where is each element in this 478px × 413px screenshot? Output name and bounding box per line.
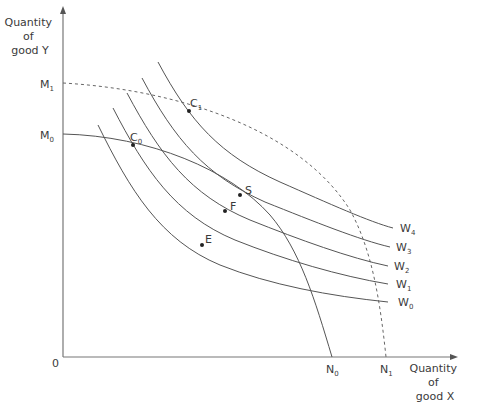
label-n1: N1 (380, 363, 393, 378)
label-w0: W0 (398, 296, 413, 311)
label-m0: M0 (40, 129, 54, 144)
label-c1: C1 (190, 97, 202, 112)
label-w3: W3 (396, 241, 411, 256)
point-e (200, 243, 204, 247)
label-n0: N0 (326, 363, 339, 378)
y-axis-label: Quantity of good Y (4, 16, 55, 57)
point-s (238, 193, 242, 197)
y-axis-arrow-icon (60, 6, 66, 14)
origin-label: 0 (52, 357, 59, 370)
ppf-initial-curve (63, 134, 332, 357)
label-w2: W2 (394, 260, 409, 275)
x-axis-label: Quantity of good X (409, 362, 460, 403)
label-e: E (205, 233, 212, 246)
production-possibility-diagram: Quantity of good Y Quantity of good X 0 … (0, 0, 478, 413)
label-m1: M1 (40, 78, 54, 93)
label-c0: C0 (130, 131, 142, 146)
indifference-curve-w3 (142, 78, 390, 247)
x-axis-arrow-icon (450, 354, 458, 360)
point-f (223, 209, 227, 213)
indifference-curve-w4 (158, 62, 393, 228)
label-w4: W4 (400, 222, 416, 237)
ppf-expanded-curve (63, 83, 386, 357)
indifference-curves (98, 62, 393, 302)
label-w1: W1 (396, 278, 411, 293)
label-s: S (245, 184, 252, 197)
label-f: F (230, 200, 236, 213)
